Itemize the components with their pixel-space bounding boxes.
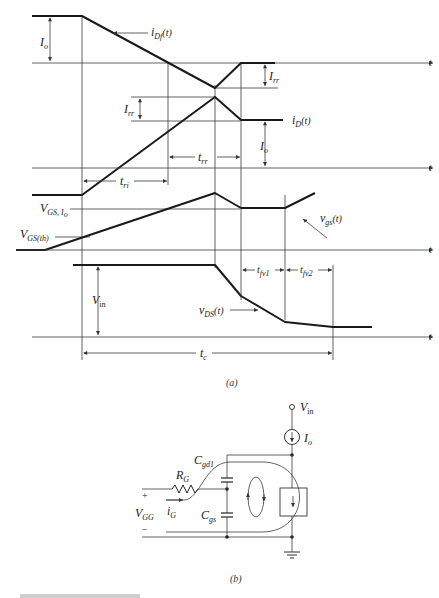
tri-label: tri [120,174,129,190]
vgs-label: vgs(t) [320,211,343,227]
axis-label-t: t [429,244,432,255]
caption-a: (a) [226,377,238,389]
tc-label: tc [200,346,207,362]
circulating-current-icon [248,477,264,517]
footer-partial-caption [20,594,140,598]
caption-b: (b) [230,573,242,585]
io-top-label: Io [39,35,48,51]
vgg-minus: − [142,524,148,535]
io-circuit-label: Io [303,431,312,447]
vin-terminal-icon [290,405,295,410]
irr-top-label: Irr [268,69,280,85]
vds-waveform [73,265,372,327]
id-waveform [32,97,283,195]
source-node-left [225,535,229,539]
id-label: iD(t) [292,113,311,129]
vin-label: Vin [92,293,106,309]
vgs-io-label: VGS, Io [40,201,68,219]
cgs-label: Cgs [201,508,216,524]
part-b-circuit: Vin Io Cgd1 Cgs RG iG + VGG − [135,400,314,585]
vgs-waveform [16,193,315,250]
vin-circuit-label: Vin [300,400,314,416]
vgs-th-label: VGS(th) [20,227,49,243]
switching-waveforms-figure: t iDf(t) Io Irr Irr iD(t) Io t trr [0,0,439,598]
part-a-timing-diagram: t iDf(t) Io Irr Irr iD(t) Io t trr [16,16,433,389]
axis-label-t: t [429,331,432,342]
irr-mid-label: Irr [123,102,135,118]
rg-label: RG [175,468,189,484]
tfv2-label: tfv2 [300,264,313,278]
trr-label: trr [198,150,208,166]
vgg-label: VGG [135,506,154,522]
io-mid-label: Io [259,139,268,155]
idf-label: iDf(t) [151,25,172,41]
rg-resistor-icon [172,485,198,493]
axis-label-t: t [429,57,432,68]
tfv1-label: tfv1 [257,264,270,278]
vgg-plus: + [142,490,148,501]
ig-label: iG [167,504,176,520]
mosfet-channel-box [280,488,307,516]
cgd-label: Cgd1 [194,453,214,469]
gate-current-loop [166,462,300,532]
vds-label: vDS(t) [199,303,224,319]
axis-label-t: t [429,162,432,173]
